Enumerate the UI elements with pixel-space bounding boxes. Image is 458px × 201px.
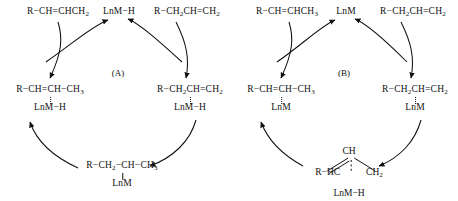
bond-b-right [415, 97, 416, 104]
reaction-scheme-figure: R−CH=CHCH2 LnM−H R−CH2CH=CH2 R−CH=CH−CH3… [0, 0, 458, 201]
species-b-top-right-formula: R−CH2CH=CH2 [380, 6, 446, 18]
species-a-bottom-formula: R−CH2−CH−CH3 [86, 160, 157, 172]
species-b-bottom-allyl: CH R−HCCH2 LnM−H [315, 146, 383, 198]
catalytic-cycle-b: R−CH=CHCH3 LnM R−CH2CH=CH2 R−CH=CH−CH3 L… [229, 0, 458, 201]
species-a-left-formula: R−CH=CH−CH3 [16, 84, 84, 96]
species-b-right: R−CH2CH=CH2 LnM [382, 84, 448, 113]
species-b-top-left: R−CH=CHCH3 [256, 6, 318, 18]
species-b-left-formula: R−CH=CH−CH3 [247, 84, 315, 96]
species-b-top-mid: LnM [336, 6, 356, 17]
species-a-top-left-formula: R−CH=CHCH2 [27, 6, 89, 18]
allyl-metal: LnM−H [315, 188, 383, 198]
bond-a-bottom [122, 173, 123, 180]
species-a-top-mid-formula: LnM−H [103, 6, 135, 17]
allyl-apex: CH [315, 146, 383, 156]
bond-b-left [281, 97, 282, 104]
species-b-top-mid-formula: LnM [336, 6, 356, 17]
species-a-bottom: R−CH2−CH−CH3 LnM [86, 160, 157, 189]
species-a-top-right: R−CH2CH=CH2 [154, 6, 220, 18]
species-b-right-formula: R−CH2CH=CH2 [382, 84, 448, 96]
cycle-b-label: (B) [338, 68, 350, 78]
species-a-top-right-formula: R−CH2CH=CH2 [154, 6, 220, 18]
species-a-top-mid: LnM−H [103, 6, 135, 17]
bond-a-right [190, 97, 191, 104]
species-a-right-formula: R−CH2CH=CH2 [157, 84, 223, 96]
allyl-bond-lines [321, 157, 381, 173]
bond-a-left [50, 97, 51, 104]
species-a-right: R−CH2CH=CH2 LnM−H [157, 84, 223, 113]
catalytic-cycle-a: R−CH=CHCH2 LnM−H R−CH2CH=CH2 R−CH=CH−CH3… [0, 0, 229, 201]
species-b-top-right: R−CH2CH=CH2 [380, 6, 446, 18]
species-b-left: R−CH=CH−CH3 LnM [247, 84, 315, 113]
cycle-a-label: (A) [112, 68, 125, 78]
species-a-left: R−CH=CH−CH3 LnM−H [16, 84, 84, 113]
species-a-top-left: R−CH=CHCH2 [27, 6, 89, 18]
species-b-top-left-formula: R−CH=CHCH3 [256, 6, 318, 18]
